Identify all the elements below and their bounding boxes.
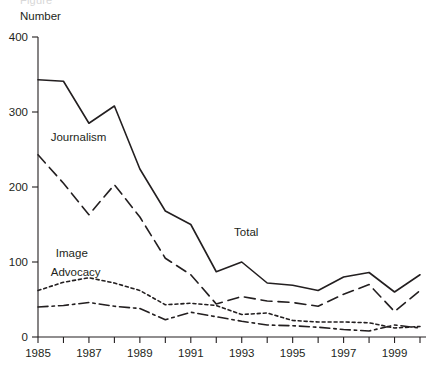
svg-text:0: 0: [22, 331, 28, 343]
svg-text:400: 400: [9, 31, 28, 43]
x-axis-tick-labels: 19851987198919911993199519971999: [25, 347, 407, 359]
y-axis-ticks: [32, 37, 38, 337]
series-line-total: [38, 80, 420, 292]
series-line-advocacy: [38, 303, 420, 332]
series-label-advocacy: Advocacy: [51, 266, 101, 278]
chart-figure: Figure Number 0100200300400 198519871989…: [0, 0, 436, 368]
svg-text:1985: 1985: [25, 347, 51, 359]
svg-text:200: 200: [9, 181, 28, 193]
series-label-total: Total: [234, 226, 258, 238]
svg-text:300: 300: [9, 106, 28, 118]
svg-text:1995: 1995: [280, 347, 306, 359]
series-annotations: TotalJournalismImageAdvocacy: [51, 131, 259, 279]
series-label-journalism: Journalism: [51, 131, 107, 143]
series-label-image: Image: [56, 247, 88, 259]
svg-text:1999: 1999: [382, 347, 408, 359]
svg-text:1997: 1997: [331, 347, 357, 359]
svg-text:1993: 1993: [229, 347, 255, 359]
svg-text:1987: 1987: [76, 347, 102, 359]
series-line-journalism: [38, 155, 420, 312]
series-lines: [38, 80, 420, 331]
svg-text:1991: 1991: [178, 347, 204, 359]
svg-text:100: 100: [9, 256, 28, 268]
x-axis-ticks: [38, 337, 420, 343]
line-chart-canvas: 0100200300400 19851987198919911993199519…: [0, 0, 436, 368]
svg-text:1989: 1989: [127, 347, 153, 359]
y-axis-tick-labels: 0100200300400: [9, 31, 28, 343]
